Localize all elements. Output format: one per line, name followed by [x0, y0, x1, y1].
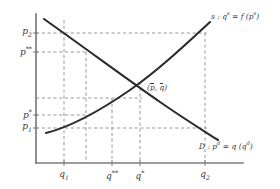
- x-tick-label-q-star: q*: [128, 170, 152, 181]
- y-tick-label-p-double-star: p**: [6, 46, 32, 57]
- guide-lines: [36, 20, 207, 163]
- axis-ticks: [33, 33, 205, 166]
- supply-demand-figure: p2 p** p* p1 q1 q** q* q2 s : qs = f (ps…: [0, 0, 280, 189]
- y-tick-label-p-star: p*: [8, 109, 32, 120]
- x-tick-label-q-double-star: q**: [99, 170, 125, 181]
- demand-curve-label: D : pd = q (qd): [199, 141, 253, 150]
- y-tick-label-p1: p1: [10, 122, 32, 133]
- equilibrium-point-label: (p, q): [147, 84, 167, 92]
- supply-curve-label: s : qs = f (ps): [211, 11, 259, 20]
- y-tick-label-p2: p2: [10, 27, 32, 38]
- demand-curve-path: [44, 19, 218, 140]
- plot-canvas: [0, 0, 280, 189]
- x-tick-label-q1: q1: [52, 170, 76, 181]
- x-tick-label-q2: q2: [193, 170, 217, 181]
